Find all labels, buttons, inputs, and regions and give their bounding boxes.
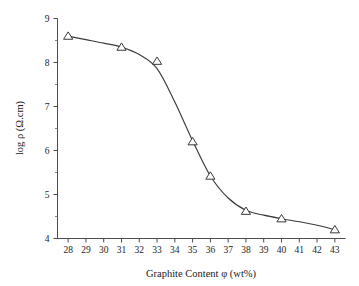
x-tick-label: 35 <box>188 245 198 255</box>
y-tick-label: 7 <box>45 102 50 112</box>
x-tick-label: 34 <box>170 245 180 255</box>
x-tick-label: 37 <box>223 245 233 255</box>
x-tick-label: 43 <box>330 245 340 255</box>
y-tick-label: 4 <box>45 234 50 244</box>
x-tick-label: 38 <box>241 245 251 255</box>
y-tick-label: 5 <box>45 190 50 200</box>
x-tick-label: 36 <box>206 245 216 255</box>
y-tick-label: 8 <box>45 58 50 68</box>
x-tick-label: 41 <box>295 245 305 255</box>
chart-background <box>0 0 359 286</box>
x-tick-label: 39 <box>259 245 269 255</box>
x-tick-label: 40 <box>277 245 287 255</box>
x-axis-title: Graphite Content φ (wt%) <box>146 268 257 280</box>
y-tick-label: 6 <box>45 146 50 156</box>
x-tick-label: 33 <box>152 245 162 255</box>
x-tick-label: 28 <box>63 245 73 255</box>
x-tick-label: 29 <box>81 245 91 255</box>
y-tick-label: 9 <box>45 14 50 24</box>
x-tick-label: 31 <box>117 245 127 255</box>
chart-figure: 456789 28293031323334353637383940414243 … <box>0 0 359 286</box>
x-tick-label: 30 <box>99 245 109 255</box>
x-tick-label: 32 <box>135 245 145 255</box>
resistivity-vs-graphite-content-chart: 456789 28293031323334353637383940414243 … <box>0 0 359 286</box>
y-axis-title: log ρ (Ω.cm) <box>14 100 26 155</box>
x-tick-label: 42 <box>312 245 322 255</box>
